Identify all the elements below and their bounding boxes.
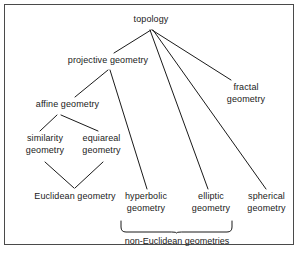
node-projective-geometry: projective geometry bbox=[60, 55, 156, 67]
edge-topology-to-projective-geometry bbox=[114, 30, 151, 53]
curly-brace-non-euclidean bbox=[121, 221, 232, 233]
node-affine-geometry: affine geometry bbox=[29, 99, 106, 111]
node-hyperbolic-geometry: hyperbolic geometry bbox=[120, 191, 172, 214]
node-topology: topology bbox=[127, 14, 175, 26]
diagram-figure: topologyprojective geometryaffine geomet… bbox=[0, 0, 299, 253]
edge-affine-geometry-to-similarity-geometry bbox=[40, 115, 57, 131]
node-spherical-geometry: spherical geometry bbox=[241, 191, 292, 214]
node-fractal-geometry: fractal geometry bbox=[223, 82, 269, 105]
node-similarity-geometry: similarity geometry bbox=[20, 133, 70, 156]
node-equiareal-geometry: equiareal geometry bbox=[76, 133, 127, 156]
edge-topology-to-fractal-geometry bbox=[152, 30, 231, 80]
edge-topology-to-elliptic-geometry bbox=[150, 30, 208, 189]
edge-projective-geometry-to-affine-geometry bbox=[75, 70, 108, 97]
edge-projective-geometry-to-hyperbolic-geometry bbox=[110, 70, 147, 189]
edge-affine-geometry-to-equiareal-geometry bbox=[61, 115, 98, 131]
diagram-edges bbox=[0, 0, 299, 253]
node-elliptic-geometry: elliptic geometry bbox=[188, 191, 234, 214]
brace-label-non-euclidean: non-Euclidean geometries bbox=[118, 236, 236, 248]
edge-topology-to-spherical-geometry bbox=[153, 30, 266, 189]
edge-similarity-geometry-to-euclidean-geometry bbox=[45, 162, 74, 188]
node-euclidean-geometry: Euclidean geometry bbox=[23, 191, 127, 203]
edge-equiareal-geometry-to-euclidean-geometry bbox=[75, 162, 103, 188]
